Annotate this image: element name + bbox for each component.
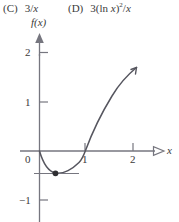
x-axis-label: x: [167, 144, 172, 156]
choice-d-ln-open: (ln: [96, 2, 111, 14]
x-tick-label-1: 1: [82, 153, 88, 165]
answer-choice-d-tag: (D): [68, 2, 83, 14]
x-tick-label-2: 2: [130, 153, 136, 165]
y-tick-label-2: 2: [25, 46, 31, 58]
y-tick-label-1: 1: [25, 96, 31, 108]
choice-c-variable: x: [33, 2, 38, 14]
answer-choice-d-expression: 3(ln x)2/x: [90, 2, 131, 14]
answer-choice-d[interactable]: (D)3(ln x)2/x: [68, 2, 131, 14]
choice-d-variable-2: x: [126, 2, 131, 14]
function-curve: [40, 68, 137, 174]
y-axis-label: f(x): [31, 16, 46, 28]
answer-choice-c[interactable]: (C)3/x: [3, 2, 38, 14]
y-axis-ticks: [40, 53, 49, 201]
minimum-point-marker: [53, 170, 59, 176]
function-graph: f(x) 2 1 −1 0 1 2 x: [0, 16, 179, 222]
answer-choice-c-expression: 3/x: [25, 2, 38, 14]
x-tick-label-0: 0: [25, 153, 31, 165]
x-axis: [20, 147, 164, 156]
y-tick-label-neg1: −1: [19, 194, 31, 206]
y-axis-arrowhead: [35, 33, 44, 43]
x-axis-arrowhead: [154, 147, 165, 156]
question-figure-panel: (C)3/x (D)3(ln x)2/x: [0, 0, 179, 222]
answer-choice-c-tag: (C): [3, 2, 18, 14]
y-axis: [35, 33, 44, 222]
x-axis-ticks: [85, 143, 133, 151]
